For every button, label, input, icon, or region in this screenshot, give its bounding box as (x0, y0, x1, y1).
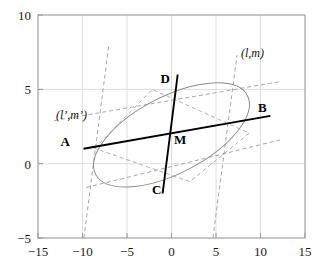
y-tick-label-minus5: −5 (17, 231, 31, 246)
ellipse-conjugate-diameters-figure: A B M C D (l,m) (l’,m’) −15 −10 −5 0 5 1… (0, 0, 324, 270)
label-point-b: B (258, 100, 267, 115)
figure-page: A B M C D (l,m) (l’,m’) −15 −10 −5 0 5 1… (0, 0, 324, 270)
y-axis-tick-labels: 10 5 0 −5 (17, 8, 31, 246)
y-tick-label-10: 10 (18, 8, 31, 23)
x-tick-label-minus15: −15 (28, 244, 48, 259)
tangent-left-steep-line (84, 45, 109, 238)
label-point-c: C (152, 182, 161, 197)
x-tick-label-10: 10 (254, 244, 267, 259)
x-tick-label-minus5: −5 (120, 244, 134, 259)
x-tick-label-minus10: −10 (72, 244, 92, 259)
label-pencil-lm: (l,m) (241, 46, 264, 60)
label-point-m: M (174, 132, 186, 147)
y-tick-label-0: 0 (25, 157, 32, 172)
x-axis-tick-labels: −15 −10 −5 0 5 10 15 (28, 244, 312, 259)
x-tick-label-0: 0 (168, 244, 175, 259)
x-tick-label-5: 5 (213, 244, 220, 259)
label-point-d: D (161, 71, 170, 86)
y-tick-label-5: 5 (25, 82, 32, 97)
label-point-a: A (61, 134, 71, 149)
label-pencil-lm-prime: (l’,m’) (56, 108, 87, 122)
tangent-upper-shallow-line (54, 82, 278, 121)
x-tick-label-15: 15 (299, 244, 312, 259)
